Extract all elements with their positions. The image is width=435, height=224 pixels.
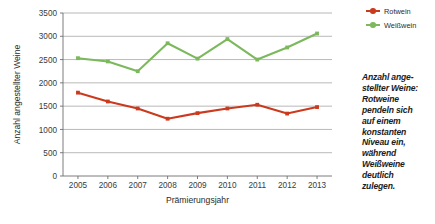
data-point: [255, 103, 259, 107]
x-tick-label: 2009: [188, 181, 207, 190]
caption-line: Weißweine: [362, 159, 435, 170]
data-point: [225, 37, 229, 41]
caption-line: während: [362, 148, 435, 159]
chart-page: 0500100015002000250030003500200520062007…: [0, 0, 435, 224]
caption-line: stellter Weine:: [362, 83, 435, 94]
legend-marker-weisswein: [366, 21, 380, 30]
data-point: [315, 105, 319, 109]
legend-item-rotwein: Rotwein: [366, 6, 416, 17]
caption-line: zulegen.: [362, 181, 435, 192]
x-tick-label: 2008: [159, 181, 178, 190]
y-tick-label: 2000: [39, 79, 58, 88]
x-tick-label: 2013: [308, 181, 327, 190]
caption-line: Rotweine: [362, 94, 435, 105]
data-point: [76, 91, 80, 95]
data-point: [285, 112, 289, 116]
y-tick-label: 1500: [39, 102, 58, 111]
data-point: [315, 32, 319, 36]
data-point: [76, 56, 80, 60]
legend-item-weisswein: Weißwein: [366, 20, 416, 31]
x-tick-label: 2010: [218, 181, 237, 190]
x-axis-title: Prämierungsjahr: [166, 195, 229, 205]
chart-legend: Rotwein Weißwein: [366, 6, 416, 31]
data-point: [285, 46, 289, 50]
x-tick-label: 2006: [99, 181, 118, 190]
series-line-weißwein: [78, 33, 317, 71]
data-point: [136, 107, 140, 111]
caption-line: Anzahl ange-: [362, 72, 435, 83]
y-tick-label: 1000: [39, 126, 58, 135]
legend-dot-weisswein: [370, 22, 376, 28]
data-point: [225, 107, 229, 111]
caption-line: konstanten: [362, 127, 435, 138]
data-point: [196, 57, 200, 61]
legend-label-rotwein: Rotwein: [384, 7, 411, 16]
caption-line: auf einem: [362, 116, 435, 127]
y-tick-label: 3500: [39, 9, 58, 18]
legend-dot-rotwein: [370, 8, 376, 14]
data-point: [166, 117, 170, 121]
right-column: Rotwein Weißwein Anzahl ange-stellter We…: [338, 0, 435, 224]
x-tick-label: 2005: [69, 181, 88, 190]
caption-line: pendeln sich: [362, 105, 435, 116]
caption-line: deutlich: [362, 170, 435, 181]
x-tick-label: 2011: [248, 181, 266, 190]
y-axis-title: Anzahl angestellter Weine: [12, 44, 22, 144]
caption-line: Niveau ein,: [362, 137, 435, 148]
legend-marker-rotwein: [366, 7, 380, 16]
y-tick-label: 500: [43, 149, 57, 158]
x-tick-label: 2012: [278, 181, 297, 190]
data-point: [106, 100, 110, 104]
y-tick-label: 0: [52, 172, 57, 181]
chart-caption: Anzahl ange-stellter Weine:Rotweinepende…: [362, 72, 435, 192]
legend-label-weisswein: Weißwein: [384, 21, 416, 30]
y-tick-label: 2500: [39, 56, 58, 65]
x-tick-label: 2007: [129, 181, 148, 190]
chart-region: 0500100015002000250030003500200520062007…: [0, 0, 338, 224]
data-point: [166, 41, 170, 45]
data-point: [196, 111, 200, 115]
line-chart: 0500100015002000250030003500200520062007…: [0, 0, 338, 224]
data-point: [255, 58, 259, 62]
y-tick-label: 3000: [39, 32, 58, 41]
data-point: [136, 69, 140, 73]
data-point: [106, 60, 110, 64]
